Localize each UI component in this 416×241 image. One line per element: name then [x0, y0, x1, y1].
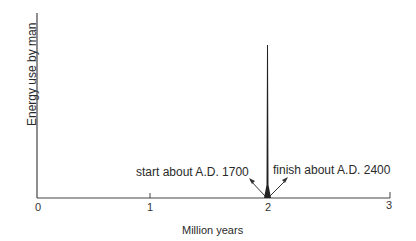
x-tick-label-3: 3	[386, 199, 392, 211]
x-tick-label-2: 2	[265, 201, 271, 213]
finish-arrow	[270, 180, 286, 196]
x-tick-label-0: 0	[35, 201, 41, 213]
start-arrowhead	[249, 178, 255, 184]
x-axis-label: Million years	[182, 224, 243, 236]
x-tick-label-1: 1	[147, 201, 153, 213]
energy-spike	[264, 45, 271, 198]
finish-arrowhead	[282, 177, 288, 183]
finish-annotation: finish about A.D. 2400	[273, 163, 390, 177]
start-annotation: start about A.D. 1700	[136, 165, 249, 179]
chart-plot	[0, 0, 416, 241]
y-axis-label: Energy use by man	[25, 23, 39, 126]
